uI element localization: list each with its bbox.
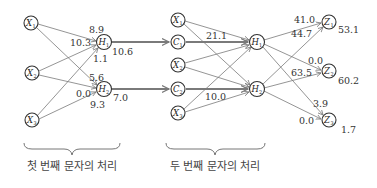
node-subscript: 2	[331, 71, 334, 77]
h2-output-value: 7.0	[113, 92, 128, 103]
edge2-x2-h2	[185, 67, 249, 87]
weight-z3-top: 3.9	[313, 98, 328, 109]
node-stage2-c2: C 2	[171, 82, 185, 96]
edge-x2-h1	[39, 45, 96, 71]
weight-h1-left: 10.3	[70, 37, 91, 48]
node-subscript: 3	[34, 120, 37, 126]
node-stage1-x1: X 1	[24, 16, 38, 30]
node-stage2-x3: X 3	[171, 106, 185, 120]
stage2-brace	[166, 143, 265, 155]
z2-output-value: 60.2	[338, 75, 359, 86]
weight-c1-h1: 21.1	[206, 30, 227, 41]
node-stage2-x2: X 2	[171, 58, 185, 72]
weight-h2-left: 0.0	[76, 88, 91, 99]
node-stage2-h1: H 1	[250, 35, 265, 50]
node-subscript: 3	[331, 120, 334, 126]
weight-h2-bottom: 9.3	[90, 99, 105, 110]
node-stage1-h1: H 1	[97, 35, 112, 50]
weight-z1-bottom: 44.7	[291, 28, 312, 39]
node-subscript: 1	[259, 42, 262, 48]
node-subscript: 2	[34, 73, 37, 79]
node-output-z3: Z 3	[322, 113, 336, 127]
weight-h1-bottom: 1.1	[93, 53, 108, 64]
node-subscript: 1	[106, 42, 109, 48]
node-stage2-x1: X 1	[171, 13, 185, 27]
node-subscript: 1	[180, 42, 183, 48]
node-subscript: 2	[259, 89, 262, 95]
node-subscript: 2	[180, 65, 183, 71]
weight-z3-bottom: 0.0	[299, 115, 314, 126]
node-subscript: 2	[180, 89, 183, 95]
node-subscript: 1	[33, 23, 36, 29]
weight-z1-top: 41.0	[294, 14, 315, 25]
node-stage1-x2: X 2	[25, 66, 39, 80]
weight-c2-h2: 10.0	[205, 91, 226, 102]
node-output-z1: Z 1	[322, 15, 336, 29]
weight-z2-top: 0.0	[308, 55, 323, 66]
weight-z2-bottom: 63.5	[291, 67, 312, 78]
node-subscript: 1	[331, 22, 334, 28]
stage2-caption: 두 번째 문자의 처리	[170, 160, 261, 173]
rnn-diagram: X 1 X 2 X 3 H 1 H 2 X 1 C 1 X 2 C 2	[0, 0, 377, 188]
edge2-x2-h1	[185, 45, 249, 63]
node-output-z2: Z 2	[322, 64, 336, 78]
weight-h1-top: 8.9	[89, 24, 104, 35]
node-subscript: 3	[180, 113, 183, 119]
node-stage2-c1: C 1	[171, 35, 185, 49]
weight-h2-top: 5.6	[89, 72, 104, 83]
stage1-caption: 첫 번째 문자의 처리	[27, 160, 118, 173]
node-stage1-x3: X 3	[25, 113, 39, 127]
node-subscript: 1	[180, 20, 183, 26]
z1-output-value: 53.1	[338, 24, 359, 35]
h1-output-value: 10.6	[112, 46, 133, 57]
node-subscript: 2	[106, 89, 109, 95]
stage1-brace	[24, 143, 120, 155]
node-stage2-h2: H 2	[250, 82, 265, 97]
z3-output-value: 1.7	[341, 124, 356, 135]
node-stage1-h2: H 2	[97, 82, 112, 97]
